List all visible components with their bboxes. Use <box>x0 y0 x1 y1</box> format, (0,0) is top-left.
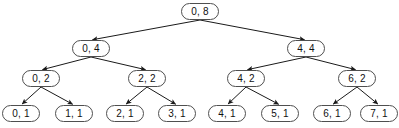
tree-edge-0-2-to-1-1 <box>41 87 73 104</box>
tree-node-2-2: 2, 2 <box>128 70 166 87</box>
tree-edge-4-4-to-6-2 <box>306 57 356 70</box>
tree-node-6-2: 6, 2 <box>338 70 376 87</box>
tree-node-0-4: 0, 4 <box>72 40 110 57</box>
tree-node-1-1: 1, 1 <box>55 105 93 122</box>
tree-node-6-1: 6, 1 <box>313 105 351 122</box>
tree-edge-2-2-to-2-1 <box>126 87 147 104</box>
binary-tree-diagram: 0, 80, 44, 40, 22, 24, 26, 20, 11, 12, 1… <box>0 0 399 128</box>
tree-node-5-1: 5, 1 <box>261 105 299 122</box>
tree-node-2-1: 2, 1 <box>106 105 144 122</box>
tree-edge-2-2-to-3-1 <box>147 87 176 104</box>
tree-node-0-1: 0, 1 <box>2 105 40 122</box>
tree-node-4-2: 4, 2 <box>227 70 265 87</box>
tree-edge-4-2-to-5-1 <box>246 87 279 104</box>
tree-node-4-4: 4, 4 <box>287 40 325 57</box>
tree-edge-6-2-to-6-1 <box>333 87 357 104</box>
tree-edge-0-4-to-2-2 <box>91 57 146 70</box>
tree-node-0-2: 0, 2 <box>22 70 60 87</box>
tree-edge-6-2-to-7-1 <box>357 87 378 104</box>
tree-edge-4-4-to-4-2 <box>247 57 306 70</box>
tree-node-0-8: 0, 8 <box>181 3 219 20</box>
tree-edge-0-4-to-0-2 <box>42 57 91 70</box>
tree-edge-4-2-to-4-1 <box>228 87 246 104</box>
tree-edge-0-2-to-0-1 <box>22 87 41 104</box>
tree-edge-0-8-to-4-4 <box>200 20 305 40</box>
tree-node-4-1: 4, 1 <box>208 105 246 122</box>
tree-node-7-1: 7, 1 <box>360 105 398 122</box>
tree-node-3-1: 3, 1 <box>158 105 196 122</box>
tree-edge-0-8-to-0-4 <box>92 20 200 40</box>
